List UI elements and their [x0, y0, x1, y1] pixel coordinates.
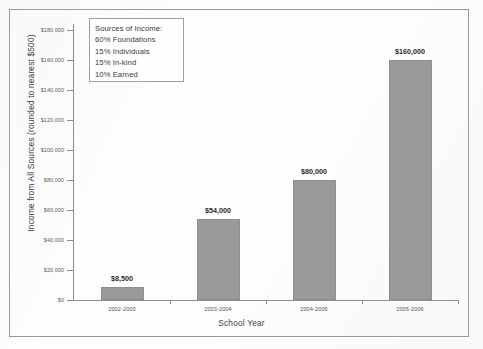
- x-axis-line: [67, 300, 459, 301]
- bar-value-label-2005-2006: $160,000: [370, 47, 450, 56]
- x-axis-tick: [362, 300, 363, 304]
- bar-2004-2005: [293, 180, 336, 300]
- y-axis-tick: [67, 90, 73, 91]
- bar-2005-2006: [389, 60, 432, 300]
- y-axis-tick: [67, 270, 73, 271]
- chart-page: $0$20,000$40,000$60,000$80,000$100,000$1…: [0, 0, 483, 349]
- bar-value-label-2002-2003: $8,500: [82, 274, 162, 283]
- y-axis-tick: [67, 180, 73, 181]
- bar-2003-2004: [197, 219, 240, 300]
- x-axis-category-label-2002-2003: 2002-2003: [82, 306, 162, 312]
- y-axis-tick: [67, 300, 73, 301]
- y-axis-tick: [67, 210, 73, 211]
- x-axis-tick: [458, 300, 459, 304]
- x-axis-title: School Year: [0, 318, 483, 328]
- y-axis-tick-label: $20,000: [0, 267, 64, 273]
- x-axis-category-label-2003-2004: 2003-2004: [178, 306, 258, 312]
- x-axis-category-label-2004-2005: 2004-2005: [274, 306, 354, 312]
- y-axis-tick: [67, 30, 73, 31]
- y-axis-tick: [67, 120, 73, 121]
- bar-2002-2003: [101, 287, 144, 300]
- x-axis-category-label-2005-2006: 2005-2006: [370, 306, 450, 312]
- legend-item-inkind: 15% In-kind: [95, 57, 183, 68]
- y-axis-tick: [67, 150, 73, 151]
- legend-item-individuals: 15% Individuals: [95, 46, 183, 57]
- bar-value-label-2004-2005: $80,000: [274, 167, 354, 176]
- y-axis-tick: [67, 240, 73, 241]
- x-axis-tick: [266, 300, 267, 304]
- y-axis-tick-label: $0: [0, 297, 64, 303]
- legend-box: Sources of Income: 60% Foundations 15% I…: [89, 18, 184, 82]
- legend-title: Sources of Income:: [95, 23, 183, 34]
- x-axis-tick: [170, 300, 171, 304]
- legend-item-earned: 10% Earned: [95, 69, 183, 80]
- bar-value-label-2003-2004: $54,000: [178, 206, 258, 215]
- y-axis-title: Income from All Sources (rounded to near…: [26, 8, 36, 258]
- y-axis-tick: [67, 60, 73, 61]
- y-axis-line: [73, 24, 74, 301]
- legend-item-foundations: 60% Foundations: [95, 34, 183, 45]
